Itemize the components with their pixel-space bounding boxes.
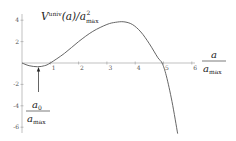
y-tick-label: 4: [15, 16, 19, 23]
chart: 123456 42-2-4-6 Vuniv(a)/amax2 a amax a0…: [0, 0, 236, 141]
x-tick-label: 4: [137, 64, 141, 71]
x-tick-label: 6: [193, 64, 197, 71]
svg-text:a: a: [211, 49, 217, 60]
x-tick-label: 1: [52, 64, 56, 71]
y-tick-label: 2: [15, 38, 19, 45]
y-tick-label: -2: [13, 80, 19, 87]
svg-text:amax: amax: [27, 113, 46, 125]
x-tick-label: 3: [108, 64, 112, 71]
x-tick-label: 5: [165, 64, 169, 71]
y-axis-label: Vuniv(a)/amax2: [41, 9, 99, 24]
svg-text:amax: amax: [203, 63, 222, 75]
a0-annotation: a0 amax: [26, 67, 50, 125]
x-tick-label: 2: [80, 64, 84, 71]
y-tick-label: -6: [13, 123, 19, 130]
svg-text:a0: a0: [32, 99, 42, 111]
potential-curve: [22, 22, 178, 134]
x-axis-label: a amax: [202, 49, 226, 75]
y-tick-label: -4: [13, 102, 19, 109]
